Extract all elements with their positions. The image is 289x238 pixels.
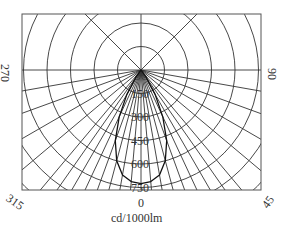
radial-tick-300: 300: [131, 111, 149, 123]
angle-label-270: 270: [0, 64, 11, 82]
angle-label-0: 0: [138, 197, 144, 209]
radial-tick-150: 150: [131, 88, 149, 100]
unit-label: cd/1000lm: [111, 212, 162, 224]
radial-tick-600: 600: [131, 158, 149, 170]
radial-tick-750: 750: [131, 182, 149, 194]
angle-label-90: 90: [266, 68, 278, 80]
radial-tick-450: 450: [131, 135, 149, 147]
